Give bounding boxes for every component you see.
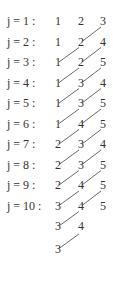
row-value: 2 — [76, 14, 86, 29]
extra-value: 4 — [76, 219, 86, 234]
row-value: 3 — [98, 14, 108, 29]
row-label: j = 8 : — [7, 158, 35, 173]
extra-value: 3 — [53, 242, 63, 257]
row-value: 4 — [98, 137, 108, 152]
row-value: 3 — [76, 158, 86, 173]
row-value: 1 — [53, 76, 63, 91]
row-value: 3 — [76, 96, 86, 111]
row-value: 4 — [76, 178, 86, 193]
row-value: 1 — [53, 117, 63, 132]
row-value: 3 — [53, 199, 63, 214]
row-value: 1 — [53, 14, 63, 29]
row-value: 4 — [98, 76, 108, 91]
row-label: j = 6 : — [7, 117, 35, 132]
row-value: 4 — [76, 199, 86, 214]
row-value: 5 — [98, 158, 108, 173]
row-value: 3 — [76, 137, 86, 152]
row-label: j = 1 : — [7, 14, 35, 29]
row-label: j = 9 : — [7, 178, 35, 193]
row-value: 5 — [98, 117, 108, 132]
row-value: 5 — [98, 178, 108, 193]
row-value: 2 — [76, 35, 86, 50]
row-value: 1 — [53, 35, 63, 50]
row-value: 3 — [76, 76, 86, 91]
row-value: 2 — [76, 55, 86, 70]
row-label: j = 3 : — [7, 55, 35, 70]
row-value: 4 — [76, 117, 86, 132]
row-value: 2 — [53, 158, 63, 173]
row-value: 5 — [98, 96, 108, 111]
row-label: j = 5 : — [7, 96, 35, 111]
row-value: 1 — [53, 96, 63, 111]
row-label: j = 7 : — [7, 137, 35, 152]
row-value: 2 — [53, 178, 63, 193]
row-value: 1 — [53, 55, 63, 70]
row-value: 2 — [53, 137, 63, 152]
row-value: 4 — [98, 35, 108, 50]
row-label: j = 2 : — [7, 35, 35, 50]
row-value: 5 — [98, 199, 108, 214]
row-label: j = 10 : — [7, 199, 41, 214]
row-label: j = 4 : — [7, 76, 35, 91]
row-value: 5 — [98, 55, 108, 70]
extra-value: 3 — [53, 219, 63, 234]
